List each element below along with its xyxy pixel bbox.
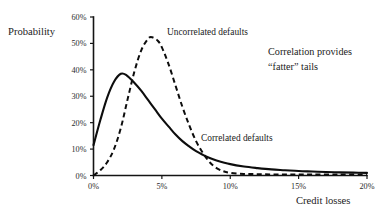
y-tick-label: 30% [71,92,86,101]
series-correlated-defaults [94,73,368,173]
chart-figure: 0%10%20%30%40%50%60%0%5%10%15%20% Probab… [0,0,386,212]
annotation-note-line-2: “fatter” tails [268,60,352,75]
annotation-correlated-defaults: Correlated defaults [201,132,273,144]
y-tick-label: 50% [71,39,86,48]
axis-tick-labels: 0%10%20%30%40%50%60%0%5%10%15%20% [71,13,374,191]
y-tick-label: 60% [71,13,86,22]
x-tick-label: 10% [223,182,238,191]
x-tick-label: 0% [88,182,99,191]
annotation-note-line-1: Correlation provides [268,45,352,60]
x-tick-label: 20% [359,182,374,191]
y-tick-label: 40% [71,66,86,75]
x-tick-label: 5% [156,182,167,191]
annotation-uncorrelated-defaults: Uncorrelated defaults [167,26,248,38]
y-tick-label: 20% [71,119,86,128]
y-axis-title: Probability [8,25,55,39]
annotation-correlation-note: Correlation provides “fatter” tails [268,45,352,75]
y-tick-label: 0% [76,172,87,181]
x-tick-label: 15% [291,182,306,191]
x-axis-title: Credit losses [296,194,350,208]
y-tick-label: 10% [71,145,86,154]
axes [90,17,367,179]
